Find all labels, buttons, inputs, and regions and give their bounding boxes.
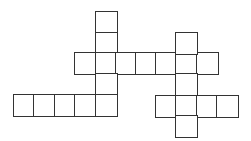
crossword-cell[interactable]	[95, 73, 117, 95]
crossword-cell[interactable]	[95, 11, 117, 33]
crossword-cell[interactable]	[216, 95, 238, 117]
crossword-cell[interactable]	[175, 115, 197, 137]
crossword-cell[interactable]	[54, 94, 76, 116]
crossword-cell[interactable]	[74, 94, 96, 116]
crossword-cell[interactable]	[175, 95, 197, 117]
crossword-cell[interactable]	[175, 52, 197, 74]
crossword-cell[interactable]	[155, 52, 177, 74]
crossword-cell[interactable]	[13, 94, 35, 116]
crossword-cell[interactable]	[196, 52, 218, 74]
crossword-cell[interactable]	[95, 94, 117, 116]
crossword-cell[interactable]	[175, 73, 197, 95]
crossword-cell[interactable]	[155, 95, 177, 117]
crossword-cell[interactable]	[95, 32, 117, 54]
crossword-cell[interactable]	[74, 52, 96, 74]
crossword-cell[interactable]	[175, 32, 197, 54]
crossword-grid	[0, 0, 251, 141]
crossword-cell[interactable]	[95, 52, 117, 74]
crossword-cell[interactable]	[196, 95, 218, 117]
crossword-cell[interactable]	[115, 52, 137, 74]
crossword-cell[interactable]	[135, 52, 157, 74]
crossword-cell[interactable]	[33, 94, 55, 116]
